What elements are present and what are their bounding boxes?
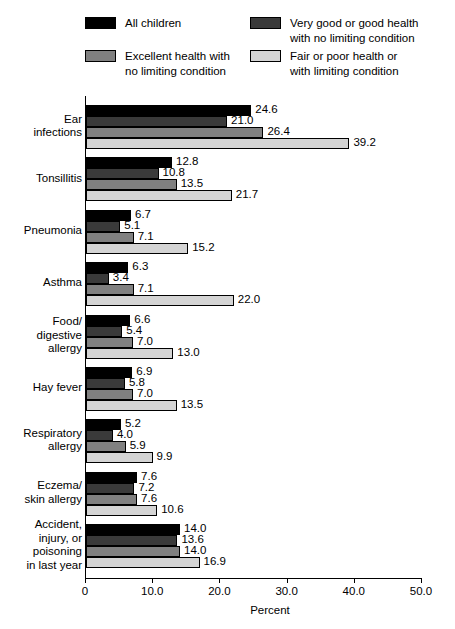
legend-swatch-all-children: [85, 17, 116, 29]
bar[interactable]: [86, 326, 122, 337]
bar[interactable]: [86, 348, 173, 359]
bar-row: 7.6: [86, 494, 446, 505]
bar-row: 13.0: [86, 348, 446, 359]
bar-row: 21.7: [86, 190, 446, 201]
chart-plot-area: 010.020.030.040.050.0 Ear infections24.6…: [0, 96, 455, 629]
bar-value-label: 10.6: [161, 503, 183, 515]
bar[interactable]: [86, 494, 137, 505]
legend-item-very-good-or-good-health: Very good or good health with no limitin…: [250, 16, 419, 45]
bar-value-label: 15.2: [192, 241, 214, 253]
bar[interactable]: [86, 284, 134, 295]
bar-row: 7.1: [86, 284, 446, 295]
bar-value-label: 22.0: [238, 293, 260, 305]
bar[interactable]: [86, 243, 188, 254]
x-axis-tick: [85, 578, 86, 583]
bar-group: Eczema/ skin allergy7.67.27.610.6: [0, 472, 455, 516]
x-axis-tick: [152, 578, 153, 583]
bar-value-label: 16.9: [204, 555, 226, 567]
bar[interactable]: [86, 337, 133, 348]
category-label: Accident, injury, or poisoning in last y…: [0, 518, 82, 572]
bar-value-label: 6.3: [132, 260, 148, 272]
bar[interactable]: [86, 367, 132, 378]
bar-group: Ear infections24.621.026.439.2: [0, 105, 455, 149]
bar[interactable]: [86, 546, 180, 557]
legend-label-excellent-health: Excellent health with no limiting condit…: [125, 49, 230, 78]
x-axis-title: Percent: [0, 604, 455, 616]
bar[interactable]: [86, 452, 153, 463]
bar-value-label: 21.7: [236, 188, 258, 200]
bar-row: 5.9: [86, 441, 446, 452]
x-axis-tick: [287, 578, 288, 583]
bar-row: 12.8: [86, 157, 446, 168]
bar[interactable]: [86, 105, 251, 116]
bar[interactable]: [86, 315, 130, 326]
bar[interactable]: [86, 168, 159, 179]
bar-group: Tonsillitis12.810.813.521.7: [0, 157, 455, 201]
bar[interactable]: [86, 430, 113, 441]
bar[interactable]: [86, 505, 157, 516]
bar-row: 22.0: [86, 295, 446, 306]
legend-item-all-children: All children: [85, 16, 181, 31]
bar-value-label: 21.0: [231, 114, 253, 126]
category-label: Hay fever: [0, 381, 82, 395]
bar-group: Respiratory allergy5.24.05.99.9: [0, 419, 455, 463]
bar-value-label: 13.5: [181, 177, 203, 189]
bar[interactable]: [86, 419, 121, 430]
bar[interactable]: [86, 221, 120, 232]
bar[interactable]: [86, 190, 232, 201]
bar-row: 7.1: [86, 232, 446, 243]
bar[interactable]: [86, 472, 137, 483]
bar[interactable]: [86, 535, 177, 546]
bar-group: Pneumonia6.75.17.115.2: [0, 210, 455, 254]
category-label: Ear infections: [0, 113, 82, 140]
bar[interactable]: [86, 441, 126, 452]
bar-row: 6.3: [86, 262, 446, 273]
x-axis-tick: [421, 578, 422, 583]
bar-row: 13.5: [86, 400, 446, 411]
x-axis-title-text: Percent: [165, 604, 290, 616]
legend-swatch-very-good-or-good-health: [250, 17, 281, 29]
bar-row: 10.6: [86, 505, 446, 516]
bar[interactable]: [86, 127, 263, 138]
bar-value-label: 24.6: [255, 103, 277, 115]
bar[interactable]: [86, 400, 177, 411]
bar-value-label: 7.0: [137, 335, 153, 347]
bar-value-label: 39.2: [353, 136, 375, 148]
bar[interactable]: [86, 179, 177, 190]
bar[interactable]: [86, 389, 133, 400]
bar[interactable]: [86, 524, 180, 535]
bar-row: 5.2: [86, 419, 446, 430]
bar-value-label: 3.4: [113, 271, 129, 283]
bar[interactable]: [86, 116, 227, 127]
bar-row: 39.2: [86, 138, 446, 149]
bar[interactable]: [86, 232, 134, 243]
bar-row: 14.0: [86, 524, 446, 535]
x-axis-tick-label: 50.0: [410, 585, 432, 597]
bar[interactable]: [86, 273, 109, 284]
bar[interactable]: [86, 157, 172, 168]
x-axis-tick-label: 10.0: [141, 585, 163, 597]
bar-value-label: 13.5: [181, 398, 203, 410]
category-label: Food/ digestive allergy: [0, 315, 82, 356]
category-label: Tonsillitis: [0, 172, 82, 186]
bar[interactable]: [86, 557, 200, 568]
category-label: Respiratory allergy: [0, 427, 82, 454]
bar[interactable]: [86, 378, 125, 389]
bar-row: 9.9: [86, 452, 446, 463]
bar-value-label: 7.1: [138, 230, 154, 242]
category-label: Asthma: [0, 276, 82, 290]
bar-group: Asthma6.33.47.122.0: [0, 262, 455, 306]
legend-swatch-fair-or-poor-health: [250, 50, 281, 62]
legend-label-fair-or-poor-health: Fair or poor health or with limiting con…: [290, 49, 399, 78]
bar[interactable]: [86, 138, 349, 149]
bar-row: 14.0: [86, 546, 446, 557]
bar[interactable]: [86, 483, 134, 494]
bar-value-label: 9.9: [157, 450, 173, 462]
legend-label-all-children: All children: [125, 16, 181, 31]
bar-row: 13.6: [86, 535, 446, 546]
x-axis-tick: [219, 578, 220, 583]
bar-group: Hay fever6.95.87.013.5: [0, 367, 455, 411]
bar[interactable]: [86, 295, 234, 306]
bar-row: 16.9: [86, 557, 446, 568]
x-axis-line: [85, 578, 421, 579]
